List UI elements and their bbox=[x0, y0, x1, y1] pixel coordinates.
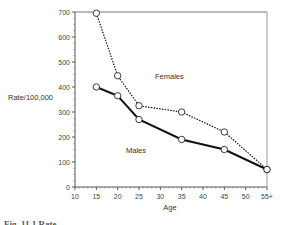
females-line bbox=[96, 13, 267, 169]
males-data-point bbox=[93, 84, 99, 90]
y-axis-title: Rate/100,000 bbox=[8, 93, 53, 102]
y-tick-label: 100 bbox=[58, 159, 70, 166]
males-label: Males bbox=[126, 146, 146, 155]
males-data-point bbox=[178, 136, 184, 142]
females-data-point bbox=[221, 129, 227, 135]
y-tick-label: 0 bbox=[66, 184, 70, 191]
x-tick-label: 35 bbox=[178, 193, 186, 200]
males-data-point bbox=[264, 166, 270, 172]
males-data-point bbox=[221, 146, 227, 152]
males-data-point bbox=[136, 116, 142, 122]
females-data-point bbox=[93, 10, 99, 16]
x-axis-title: Age bbox=[163, 203, 176, 212]
x-tick-label: 20 bbox=[114, 193, 122, 200]
data-series bbox=[93, 10, 270, 173]
x-tick-label: 25 bbox=[135, 193, 143, 200]
x-tick-label: 50 bbox=[242, 193, 250, 200]
x-tick-label: 30 bbox=[156, 193, 164, 200]
figure-caption: Fig. 11.1 Rate... bbox=[4, 219, 63, 225]
females-data-point bbox=[136, 103, 142, 109]
y-tick-label: 600 bbox=[58, 34, 70, 41]
x-tick-label: 55+ bbox=[261, 193, 273, 200]
line-chart: 0100200300400500600700 10152025303540455… bbox=[0, 0, 281, 225]
x-tick-label: 10 bbox=[71, 193, 79, 200]
females-data-point bbox=[178, 109, 184, 115]
y-tick-label: 300 bbox=[58, 109, 70, 116]
x-axis: 10152025303540455055+ bbox=[71, 187, 273, 200]
x-tick-label: 15 bbox=[92, 193, 100, 200]
females-label: Females bbox=[155, 72, 184, 81]
plot-frame bbox=[75, 12, 267, 187]
y-tick-label: 700 bbox=[58, 9, 70, 16]
males-line bbox=[96, 87, 267, 170]
y-tick-label: 500 bbox=[58, 59, 70, 66]
x-tick-label: 45 bbox=[220, 193, 228, 200]
males-data-point bbox=[114, 93, 120, 99]
x-tick-label: 40 bbox=[199, 193, 207, 200]
y-tick-label: 200 bbox=[58, 134, 70, 141]
females-data-point bbox=[114, 73, 120, 79]
y-axis: 0100200300400500600700 bbox=[58, 9, 75, 191]
y-tick-label: 400 bbox=[58, 84, 70, 91]
